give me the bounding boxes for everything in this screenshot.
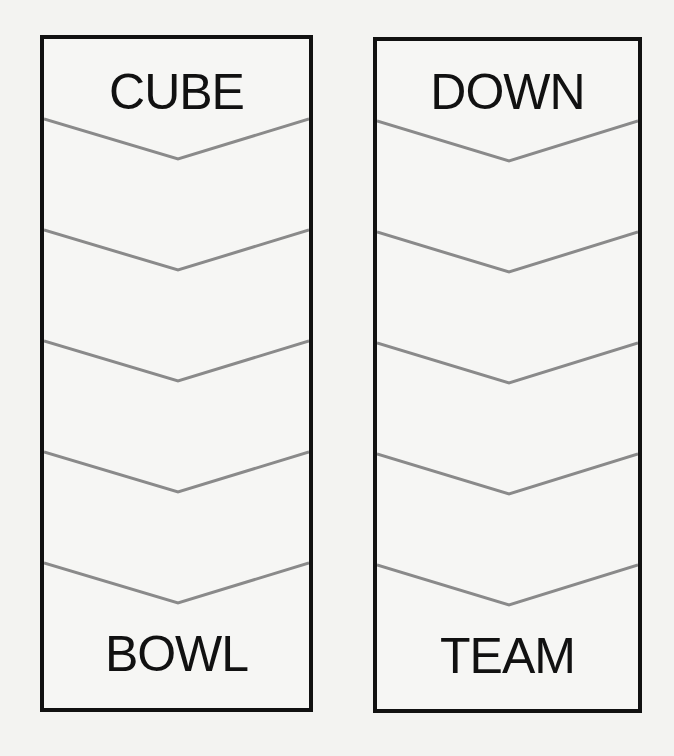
chevron-divider-1 bbox=[377, 121, 638, 161]
word-ladder-left: CUBE BOWL bbox=[40, 35, 313, 712]
chevron-divider-1 bbox=[44, 119, 309, 159]
chevron-divider-3 bbox=[377, 343, 638, 383]
chevron-divider-2 bbox=[44, 230, 309, 270]
answer-slot-4[interactable] bbox=[377, 506, 638, 566]
answer-slot-1[interactable] bbox=[377, 173, 638, 233]
chevron-divider-4 bbox=[377, 454, 638, 494]
answer-slot-3[interactable] bbox=[44, 393, 309, 453]
end-word: TEAM bbox=[377, 631, 638, 681]
answer-slot-3[interactable] bbox=[377, 395, 638, 455]
start-word: CUBE bbox=[44, 67, 309, 117]
chevron-divider-2 bbox=[377, 232, 638, 272]
answer-slot-2[interactable] bbox=[44, 282, 309, 342]
chevron-divider-5 bbox=[377, 565, 638, 605]
chevron-divider-4 bbox=[44, 452, 309, 492]
answer-slot-2[interactable] bbox=[377, 284, 638, 344]
chevron-dividers bbox=[44, 39, 309, 708]
chevron-dividers bbox=[377, 41, 638, 709]
word-ladder-right: DOWN TEAM bbox=[373, 37, 642, 713]
answer-slot-1[interactable] bbox=[44, 171, 309, 231]
end-word: BOWL bbox=[44, 629, 309, 679]
chevron-divider-5 bbox=[44, 563, 309, 603]
chevron-divider-3 bbox=[44, 341, 309, 381]
answer-slot-4[interactable] bbox=[44, 504, 309, 564]
start-word: DOWN bbox=[377, 67, 638, 117]
